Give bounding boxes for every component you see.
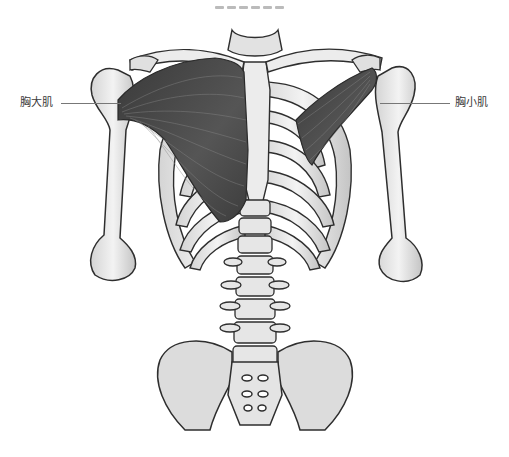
right-humerus bbox=[375, 67, 422, 282]
leader-line-pectoralis-minor bbox=[380, 103, 450, 104]
label-pectoralis-minor: 胸小肌 bbox=[455, 96, 488, 110]
anatomy-diagram: 胸大肌 胸小肌 bbox=[0, 0, 509, 457]
pectoralis-major-muscle bbox=[118, 58, 248, 222]
spine bbox=[220, 200, 290, 366]
label-pectoralis-major: 胸大肌 bbox=[20, 96, 53, 110]
leader-line-pectoralis-major bbox=[61, 103, 121, 104]
cropped-title bbox=[215, 0, 295, 2]
skeleton-illustration bbox=[0, 0, 509, 457]
